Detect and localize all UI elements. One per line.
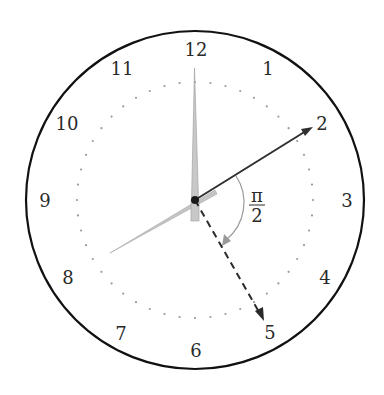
dot xyxy=(194,317,196,319)
dot xyxy=(149,308,151,310)
clock-number-12: 12 xyxy=(185,39,208,60)
dot xyxy=(92,140,94,142)
dot xyxy=(135,97,137,99)
dot xyxy=(92,258,94,260)
dot xyxy=(85,244,87,246)
dot xyxy=(179,316,181,318)
dot xyxy=(253,301,255,303)
dot xyxy=(296,140,298,142)
dot xyxy=(209,82,211,84)
dot xyxy=(100,127,102,129)
angle-arc xyxy=(226,176,244,240)
dot xyxy=(296,258,298,260)
clock-number-11: 11 xyxy=(111,58,134,79)
clock-number-4: 4 xyxy=(319,267,330,288)
vertical-hand xyxy=(192,68,199,200)
dot xyxy=(80,168,82,170)
dot xyxy=(312,199,314,201)
dot xyxy=(288,127,290,129)
clock-number-1: 1 xyxy=(262,58,273,79)
dot xyxy=(163,313,165,315)
dot xyxy=(76,199,78,201)
dot xyxy=(288,271,290,273)
dot xyxy=(135,301,137,303)
dot xyxy=(253,97,255,99)
clock-number-10: 10 xyxy=(56,113,79,134)
dot xyxy=(224,313,226,315)
dot xyxy=(303,244,305,246)
dot xyxy=(163,85,165,87)
dot xyxy=(77,184,79,186)
solid-arrowhead-icon xyxy=(301,127,313,136)
dot xyxy=(122,105,124,107)
clock-number-3: 3 xyxy=(341,190,352,211)
light-hand xyxy=(110,190,217,253)
dot xyxy=(277,116,279,118)
dot xyxy=(266,105,268,107)
dot xyxy=(149,90,151,92)
angle-label-denominator: 2 xyxy=(251,205,262,226)
dot xyxy=(308,229,310,231)
dot xyxy=(239,90,241,92)
dot xyxy=(111,116,113,118)
dot xyxy=(303,154,305,156)
clock-number-2: 2 xyxy=(316,113,327,134)
angle-arc-arrowhead-icon xyxy=(222,234,231,246)
clock-number-6: 6 xyxy=(190,340,201,361)
dot xyxy=(209,316,211,318)
dot xyxy=(224,85,226,87)
dot xyxy=(308,168,310,170)
clock-number-9: 9 xyxy=(39,190,50,211)
dot xyxy=(179,82,181,84)
dot xyxy=(266,293,268,295)
dot xyxy=(77,214,79,216)
dot xyxy=(311,214,313,216)
clock-number-8: 8 xyxy=(62,267,73,288)
dot xyxy=(277,282,279,284)
clock-number-7: 7 xyxy=(115,323,126,344)
dot xyxy=(85,154,87,156)
clock-number-5: 5 xyxy=(264,322,275,343)
angle-label-numerator: π xyxy=(251,185,263,206)
center-hub xyxy=(191,196,199,204)
dashed-vector xyxy=(195,200,259,312)
dot xyxy=(80,229,82,231)
dot xyxy=(311,184,313,186)
dot xyxy=(111,282,113,284)
dot xyxy=(239,308,241,310)
clock-diagram: 121234567891011 π 2 xyxy=(0,0,384,395)
dot xyxy=(122,293,124,295)
dot xyxy=(100,271,102,273)
